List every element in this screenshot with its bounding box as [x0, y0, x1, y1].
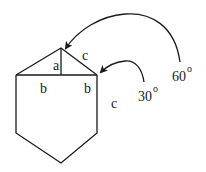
label-c-side: c [111, 96, 117, 111]
angle-30-value: 30 [138, 89, 152, 104]
angle-60-degree-sign: o [187, 63, 192, 74]
angle-30-degree-sign: o [153, 83, 158, 94]
label-b-left: b [40, 81, 47, 96]
label-b-right: b [84, 81, 91, 96]
label-c-top: c [82, 48, 88, 63]
arrow-30-arc [101, 61, 144, 82]
angle-60-value: 60 [172, 69, 186, 84]
label-a: a [53, 58, 60, 73]
hexagon-diagram: a c b b c 60 o 30 o [0, 0, 206, 172]
